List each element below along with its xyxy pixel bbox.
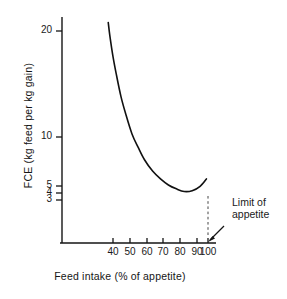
limit-of-appetite-line1: Limit of [232, 196, 269, 208]
limit-of-appetite-line2: appetite [232, 208, 269, 220]
fce-curve [108, 23, 206, 192]
chart-figure: 20 10 5 4 3 40 50 60 70 80 90 100 Feed i… [0, 0, 287, 299]
y-tick-label-20: 20 [26, 24, 52, 35]
limit-of-appetite-arrow [208, 226, 224, 242]
limit-of-appetite-label: Limit of appetite [232, 196, 269, 220]
x-axis-title: Feed intake (% of appetite) [0, 271, 240, 282]
y-axis-title: FCE (kg feed per kg gain) [23, 36, 34, 216]
x-axis-ticks [113, 238, 208, 243]
x-tick-label-100: 100 [196, 246, 220, 257]
y-axis-ticks [56, 31, 62, 200]
